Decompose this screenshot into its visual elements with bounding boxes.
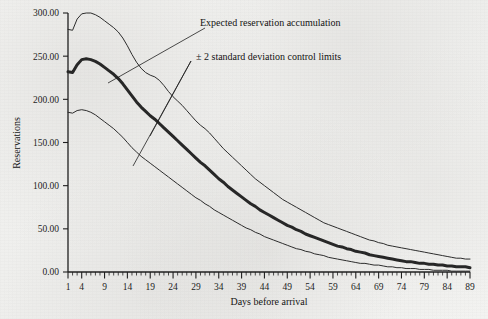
leader-line-lower-limit [133, 61, 191, 166]
y-axis-ticks: 0.0050.00100.00150.00200.00250.00300.00 [33, 8, 68, 277]
annotation-expected-label: Expected reservation accumulation [200, 17, 341, 28]
x-axis-tick-label: 4 [79, 282, 84, 292]
annotation-control-limits: ± 2 standard deviation control limits [133, 51, 341, 166]
leader-line-expected [108, 28, 205, 83]
x-axis-tick-label: 24 [168, 282, 178, 292]
y-axis-tick-label: 300.00 [33, 8, 59, 18]
x-axis-tick-label: 74 [397, 282, 407, 292]
reservation-accumulation-chart: 0.0050.00100.00150.00200.00250.00300.00 … [0, 0, 488, 319]
x-axis-tick-label: 59 [328, 282, 338, 292]
x-axis-tick-label: 1 [66, 282, 71, 292]
series-line-expected [68, 59, 470, 268]
x-axis-tick-label: 9 [102, 282, 107, 292]
x-axis-ticks: 14914192429343944495459646974798489 [66, 272, 475, 292]
x-axis-tick-label: 44 [260, 282, 270, 292]
x-axis-tick-label: 34 [214, 282, 224, 292]
annotation-expected: Expected reservation accumulation [108, 17, 341, 83]
x-axis-tick-label: 79 [420, 282, 430, 292]
y-axis-tick-label: 100.00 [33, 181, 59, 191]
x-axis-tick-label: 39 [237, 282, 247, 292]
y-axis-title: Reservations [11, 117, 22, 169]
series-line-lower-control-limit [68, 110, 470, 271]
x-axis-tick-label: 84 [442, 282, 452, 292]
x-axis-tick-label: 14 [123, 282, 133, 292]
y-axis-tick-label: 50.00 [38, 224, 60, 234]
annotation-control-limits-label: ± 2 standard deviation control limits [196, 51, 341, 62]
x-axis-tick-label: 69 [374, 282, 384, 292]
y-axis-tick-label: 150.00 [33, 138, 59, 148]
chart-figure: 0.0050.00100.00150.00200.00250.00300.00 … [0, 0, 488, 319]
x-axis-tick-label: 49 [283, 282, 293, 292]
x-axis-tick-label: 29 [191, 282, 201, 292]
y-axis-tick-label: 250.00 [33, 52, 59, 62]
x-axis-tick-label: 54 [305, 282, 315, 292]
x-axis-tick-label: 64 [351, 282, 361, 292]
x-axis-title: Days before arrival [230, 296, 307, 307]
series-line-upper-control-limit [68, 13, 470, 259]
y-axis-tick-label: 0.00 [42, 267, 59, 277]
x-axis-tick-label: 19 [145, 282, 155, 292]
x-axis-tick-label: 89 [465, 282, 475, 292]
y-axis-tick-label: 200.00 [33, 95, 59, 105]
